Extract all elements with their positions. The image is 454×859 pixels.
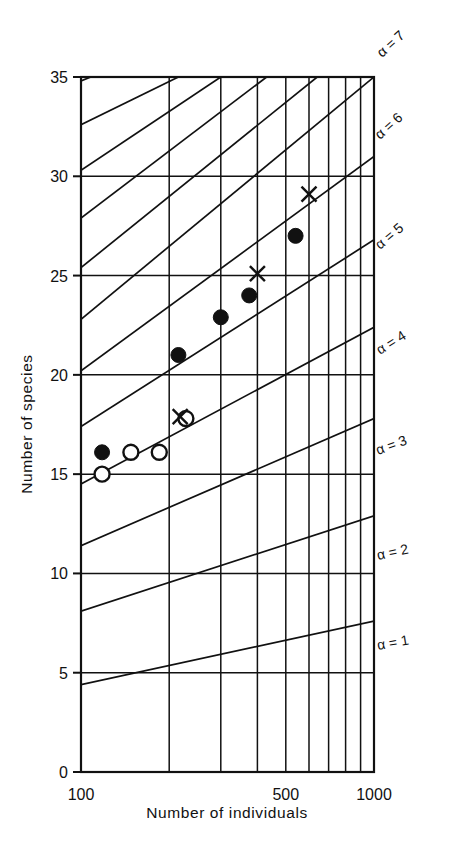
y-tick-label: 0 [59,764,68,781]
y-tick-label: 15 [50,466,68,483]
y-tick-label: 30 [50,168,68,185]
fisher-alpha-scatter-chart: 05101520253035 1005001000 α = 7α = 6α = … [0,0,454,859]
marker-filled-circle [171,348,186,363]
y-tick-label: 10 [50,565,68,582]
x-tick-label: 1000 [356,786,392,803]
y-tick-label: 25 [50,268,68,285]
x-axis-title: Number of individuals [146,804,308,821]
marker-open-circle [152,445,167,460]
marker-filled-circle [242,288,257,303]
figure-container: 05101520253035 1005001000 α = 7α = 6α = … [0,0,454,859]
marker-filled-circle [95,445,110,460]
y-tick-label: 20 [50,367,68,384]
y-tick-label: 5 [59,665,68,682]
marker-filled-circle [213,310,228,325]
marker-open-circle [123,445,138,460]
x-tick-label: 500 [272,786,299,803]
y-axis-title: Number of species [18,354,35,493]
marker-filled-circle [288,228,303,243]
marker-open-circle [95,467,110,482]
x-tick-label: 100 [68,786,95,803]
y-tick-label: 35 [50,69,68,86]
